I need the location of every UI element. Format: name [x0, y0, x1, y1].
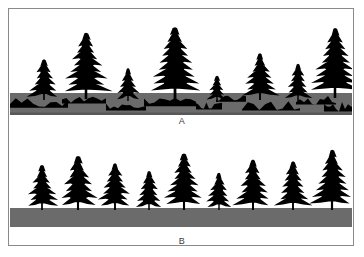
- conifer-tree-icon: [232, 154, 268, 210]
- panel-a: [10, 10, 352, 115]
- soil-band-edge: [10, 113, 352, 116]
- conifer-tree-icon: [311, 22, 352, 98]
- panel-b-scene: [10, 136, 352, 234]
- conifer-tree-icon: [65, 27, 113, 99]
- panel-a-scene: [10, 10, 352, 115]
- panel-b-label: B: [0, 236, 364, 246]
- conifer-tree-icon: [151, 21, 200, 99]
- conifer-tree-icon: [206, 168, 231, 210]
- conifer-tree-icon: [28, 160, 58, 210]
- panel-b: [10, 136, 352, 234]
- soil-band: [10, 208, 352, 227]
- figure-container: A B: [0, 0, 364, 257]
- conifer-tree-icon: [274, 156, 313, 210]
- conifer-tree-icon: [136, 166, 161, 210]
- conifer-tree-icon: [164, 148, 202, 210]
- conifer-tree-icon: [242, 48, 280, 100]
- conifer-tree-icon: [61, 150, 97, 210]
- conifer-tree-icon: [98, 158, 130, 210]
- conifer-tree-icon: [309, 144, 351, 210]
- panel-a-label: A: [0, 116, 364, 126]
